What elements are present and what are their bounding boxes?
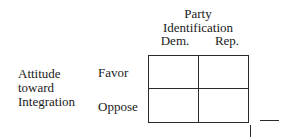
cell-oppose-dem (149, 89, 198, 122)
row-title-line1: Attitude (18, 67, 61, 81)
row-title-line2: toward (18, 81, 54, 95)
cell-favor-rep (199, 56, 248, 88)
row-label-favor: Favor (98, 66, 128, 80)
margin-tick-horizontal (260, 120, 279, 121)
column-label-dem: Dem. (160, 34, 190, 48)
column-title-line1: Party (168, 7, 228, 21)
margin-tick-vertical (250, 125, 251, 137)
row-title-line3: Integration (18, 95, 75, 109)
column-label-rep: Rep. (212, 34, 242, 48)
cell-oppose-rep (199, 89, 248, 122)
cell-favor-dem (149, 56, 198, 88)
grid-right-border (248, 55, 249, 123)
row-label-oppose: Oppose (98, 100, 138, 114)
